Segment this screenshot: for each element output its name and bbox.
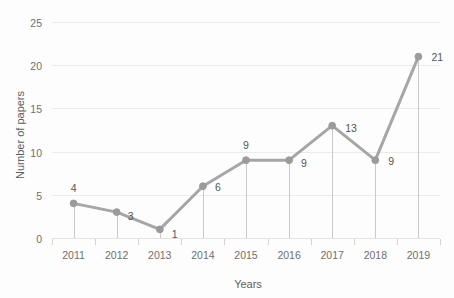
x-tick-label: 2014 bbox=[191, 249, 215, 261]
y-tick-label: 10 bbox=[30, 147, 42, 159]
chart-canvas: 0510152025 20112012201320142015201620172… bbox=[0, 0, 454, 298]
data-point-marker bbox=[70, 200, 77, 207]
data-point-marker bbox=[156, 226, 163, 233]
x-tick-label: 2011 bbox=[62, 249, 85, 261]
data-value-label: 9 bbox=[301, 157, 307, 169]
data-point-marker bbox=[200, 183, 207, 190]
x-tick-label: 2018 bbox=[364, 249, 388, 261]
data-point-marker bbox=[286, 157, 293, 164]
data-value-label: 4 bbox=[71, 182, 77, 194]
data-value-label: 9 bbox=[243, 139, 249, 151]
x-axis-tick-labels: 201120122013201420152016201720182019 bbox=[62, 249, 430, 261]
data-point-marker bbox=[243, 157, 250, 164]
x-tick-label: 2015 bbox=[234, 249, 258, 261]
data-point-marker bbox=[329, 122, 336, 129]
x-tick-label: 2019 bbox=[407, 249, 431, 261]
data-point-marker bbox=[113, 209, 120, 216]
y-tick-label: 5 bbox=[36, 190, 42, 202]
x-tick-label: 2013 bbox=[148, 249, 172, 261]
y-tick-label: 0 bbox=[36, 233, 42, 245]
line-chart: 0510152025 20112012201320142015201620172… bbox=[0, 0, 454, 298]
x-axis-title: Years bbox=[234, 278, 262, 290]
y-tick-label: 15 bbox=[30, 103, 42, 115]
data-value-label: 3 bbox=[128, 210, 134, 222]
data-value-label: 13 bbox=[345, 122, 357, 134]
data-value-label: 6 bbox=[215, 181, 221, 193]
x-tick-label: 2016 bbox=[277, 249, 301, 261]
y-axis-title: Number of papers bbox=[14, 90, 26, 179]
y-tick-label: 25 bbox=[30, 17, 42, 29]
data-value-label: 21 bbox=[431, 51, 443, 63]
data-point-marker bbox=[372, 157, 379, 164]
x-tick-label: 2017 bbox=[321, 249, 345, 261]
y-tick-label: 20 bbox=[30, 60, 42, 72]
x-tick-label: 2012 bbox=[105, 249, 129, 261]
data-value-label: 9 bbox=[388, 155, 394, 167]
data-point-marker bbox=[415, 53, 422, 60]
data-value-label: 1 bbox=[172, 228, 178, 240]
